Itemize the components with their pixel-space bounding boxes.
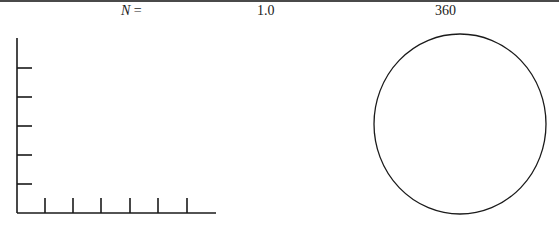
diagram-canvas bbox=[0, 0, 559, 234]
axes bbox=[17, 38, 216, 213]
circle bbox=[374, 34, 546, 214]
